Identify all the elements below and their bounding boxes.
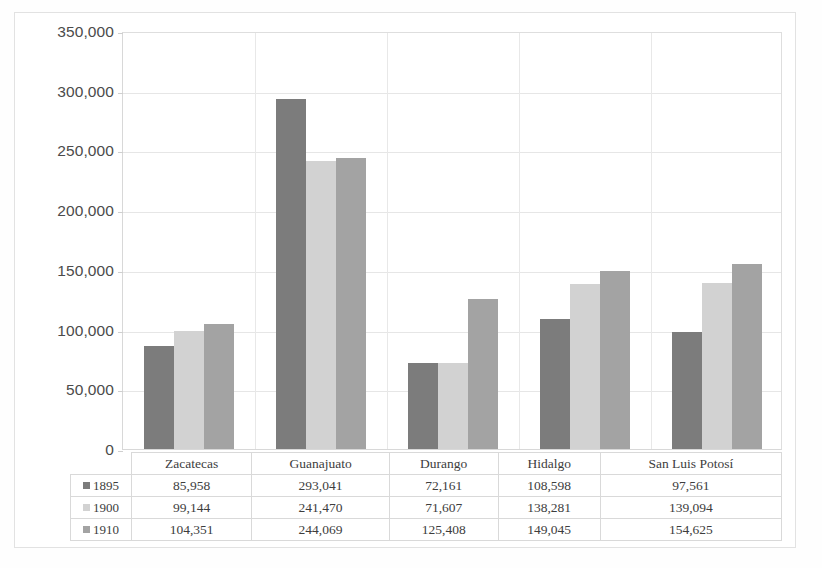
table-column-header: San Luis Potosí (600, 453, 781, 475)
y-axis-tick-label: 350,000 (30, 23, 114, 41)
table-cell: 104,351 (132, 519, 252, 541)
bar-group (387, 33, 519, 449)
y-axis: 050,000100,000150,000200,000250,000300,0… (30, 24, 118, 456)
data-table: ZacatecasGuanajuatoDurangoHidalgoSan Lui… (70, 452, 782, 541)
table-cell: 241,470 (252, 497, 390, 519)
bar-1895-guanajuato[interactable] (276, 99, 306, 449)
bar-1910-guanajuato[interactable] (336, 158, 366, 449)
category-separator (519, 33, 520, 449)
bar-group (519, 33, 651, 449)
bar-1895-durango[interactable] (408, 363, 438, 449)
y-axis-tick-label: 250,000 (30, 142, 114, 160)
table-corner-cell (71, 453, 132, 475)
legend-swatch-icon (83, 482, 90, 489)
category-separator (387, 33, 388, 449)
category-separator (255, 33, 256, 449)
bar-1900-durango[interactable] (438, 363, 468, 449)
bar-1910-san-luis-potosí[interactable] (732, 264, 762, 449)
bar-1900-zacatecas[interactable] (174, 331, 204, 449)
table-header-row: ZacatecasGuanajuatoDurangoHidalgoSan Lui… (71, 453, 782, 475)
legend-series-label: 1900 (93, 500, 119, 515)
table-cell: 72,161 (389, 475, 498, 497)
bars-layer (123, 33, 781, 449)
bar-group (123, 33, 255, 449)
bar-1900-san-luis-potosí[interactable] (702, 283, 732, 449)
legend-series-label: 1895 (93, 478, 119, 493)
table-cell: 85,958 (132, 475, 252, 497)
category-separator (651, 33, 652, 449)
y-axis-tick-label: 100,000 (30, 322, 114, 340)
bar-group (651, 33, 783, 449)
table-cell: 97,561 (600, 475, 781, 497)
chart-plot-wrapper: 050,000100,000150,000200,000250,000300,0… (30, 24, 790, 464)
table-row: 190099,144241,47071,607138,281139,094 (71, 497, 782, 519)
bar-1910-durango[interactable] (468, 299, 498, 449)
table-cell: 71,607 (389, 497, 498, 519)
legend-series-label: 1910 (93, 522, 119, 537)
y-axis-tick-label: 300,000 (30, 83, 114, 101)
table-column-header: Zacatecas (132, 453, 252, 475)
table-cell: 139,094 (600, 497, 781, 519)
legend-item-1900[interactable]: 1900 (71, 497, 132, 519)
table-cell: 99,144 (132, 497, 252, 519)
bar-group (255, 33, 387, 449)
table-cell: 149,045 (498, 519, 600, 541)
legend-item-1910[interactable]: 1910 (71, 519, 132, 541)
table-body: 189585,958293,04172,161108,59897,5611900… (71, 475, 782, 541)
bar-1895-hidalgo[interactable] (540, 319, 570, 449)
table-column-header: Guanajuato (252, 453, 390, 475)
table-cell: 154,625 (600, 519, 781, 541)
y-axis-tick-label: 200,000 (30, 202, 114, 220)
table-cell: 125,408 (389, 519, 498, 541)
table-row: 1910104,351244,069125,408149,045154,625 (71, 519, 782, 541)
table-column-header: Hidalgo (498, 453, 600, 475)
y-axis-tick-label: 50,000 (30, 381, 114, 399)
bar-1910-hidalgo[interactable] (600, 271, 630, 449)
bar-1895-zacatecas[interactable] (144, 346, 174, 449)
table-row: 189585,958293,04172,161108,59897,561 (71, 475, 782, 497)
legend-swatch-icon (83, 526, 90, 533)
legend-swatch-icon (83, 504, 90, 511)
bar-1900-hidalgo[interactable] (570, 284, 600, 449)
plot-area (122, 32, 782, 450)
table-cell: 293,041 (252, 475, 390, 497)
table-cell: 108,598 (498, 475, 600, 497)
legend-item-1895[interactable]: 1895 (71, 475, 132, 497)
chart-screenshot: 050,000100,000150,000200,000250,000300,0… (0, 0, 822, 568)
table-column-header: Durango (389, 453, 498, 475)
table-cell: 244,069 (252, 519, 390, 541)
bar-1910-zacatecas[interactable] (204, 324, 234, 449)
table-cell: 138,281 (498, 497, 600, 519)
bar-1900-guanajuato[interactable] (306, 161, 336, 449)
y-axis-tick-label: 150,000 (30, 262, 114, 280)
data-table-wrapper: ZacatecasGuanajuatoDurangoHidalgoSan Lui… (70, 452, 782, 541)
bar-1895-san-luis-potosí[interactable] (672, 332, 702, 449)
